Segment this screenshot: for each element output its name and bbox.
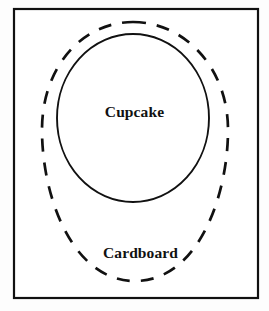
diagram-figure <box>0 0 269 311</box>
diagram-canvas: Cupcake Cardboard <box>0 0 269 311</box>
cupcake-label: Cupcake <box>0 103 269 121</box>
cardboard-label: Cardboard <box>6 244 269 262</box>
